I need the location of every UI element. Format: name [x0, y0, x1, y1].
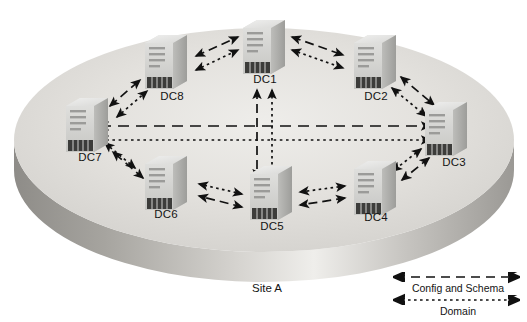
server-tower-icon-dc3[interactable]: [425, 102, 467, 156]
node-label-dc4: DC4: [354, 211, 398, 223]
node-label-dc5: DC5: [250, 220, 294, 232]
server-tower-icon-dc8[interactable]: [145, 35, 187, 89]
node-label-dc1: DC1: [243, 73, 287, 85]
node-label-dc7: DC7: [68, 151, 112, 163]
node-label-dc8: DC8: [150, 90, 194, 102]
node-label-dc3: DC3: [432, 156, 476, 168]
node-label-dc2: DC2: [354, 90, 398, 102]
node-label-dc6: DC6: [144, 208, 188, 220]
legend-label-domain: Domain: [389, 305, 527, 317]
legend-label-config: Config and Schema: [389, 282, 527, 294]
server-tower-icon-dc6[interactable]: [145, 156, 187, 210]
server-tower-icon-dc5[interactable]: [250, 166, 292, 220]
server-tower-icon-dc2[interactable]: [354, 35, 396, 89]
server-tower-icon-dc4[interactable]: [354, 161, 396, 215]
legend: Config and Schema Domain: [389, 272, 527, 322]
server-tower-icon-dc7[interactable]: [66, 98, 108, 152]
site-caption: Site A: [243, 282, 291, 294]
server-tower-icon-dc1[interactable]: [243, 20, 285, 74]
diagram-canvas: DC1 DC2 DC3 DC4 DC5 DC6 DC7 DC8 Site A: [0, 0, 527, 322]
